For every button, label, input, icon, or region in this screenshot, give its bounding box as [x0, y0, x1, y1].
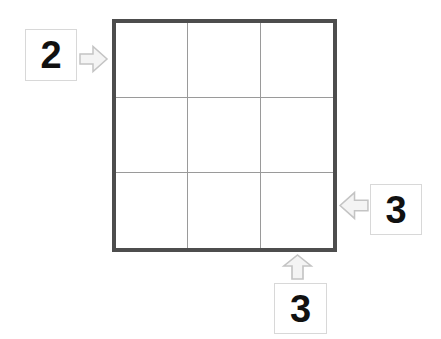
grid-cell-r3c3[interactable]	[261, 173, 333, 248]
clue-box-right: 3	[370, 184, 422, 235]
grid-cell-r1c2[interactable]	[188, 23, 260, 98]
grid-cell-r2c1[interactable]	[116, 98, 188, 173]
clue-box-left: 2	[25, 29, 77, 81]
grid-cell-r3c1[interactable]	[116, 173, 188, 248]
arrow-up-icon	[281, 253, 314, 281]
clue-box-bottom: 3	[274, 283, 327, 334]
grid-cell-r2c2[interactable]	[188, 98, 260, 173]
puzzle-grid	[112, 19, 337, 252]
arrow-left-icon	[338, 190, 370, 221]
grid-cell-r1c1[interactable]	[116, 23, 188, 98]
grid-cell-r2c3[interactable]	[261, 98, 333, 173]
puzzle-grid-cells	[116, 23, 333, 248]
grid-cell-r1c3[interactable]	[261, 23, 333, 98]
arrow-right-icon	[78, 44, 109, 74]
puzzle-canvas: 2 3 3	[0, 0, 441, 339]
grid-cell-r3c2[interactable]	[188, 173, 260, 248]
